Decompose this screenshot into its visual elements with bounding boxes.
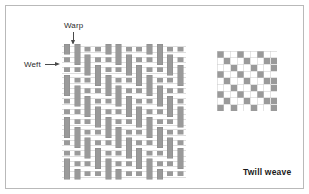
- twill-grid-diagram: [217, 51, 277, 111]
- figure-caption: Twill weave: [243, 167, 291, 177]
- warp-label: Warp: [64, 21, 83, 31]
- arrow-right-icon: [45, 62, 61, 67]
- figure-canvas: Warp Weft Twill weave: [0, 0, 309, 194]
- weave-illustration-canvas: [62, 44, 186, 181]
- weft-label: Weft: [24, 60, 41, 70]
- figure-frame: Warp Weft Twill weave: [5, 5, 304, 189]
- twill-grid-canvas: [217, 51, 277, 111]
- weave-illustration: [62, 44, 186, 181]
